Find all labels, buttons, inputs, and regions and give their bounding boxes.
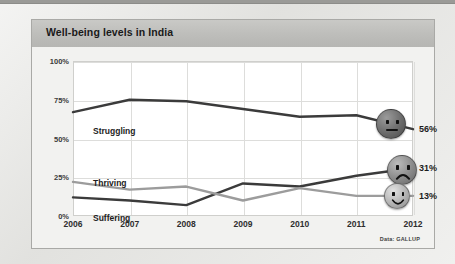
series-label-struggling: Struggling	[93, 126, 136, 136]
end-value-thriving: 31%	[419, 163, 437, 173]
x-axis: 2006200720082009201020112012	[73, 219, 413, 233]
x-tick-label: 2012	[404, 219, 423, 229]
x-tick-label: 2009	[234, 219, 253, 229]
top-divider-rule	[0, 0, 455, 4]
x-tick-label: 2007	[120, 219, 139, 229]
chart-card: Well-being levels in India 0%25%50%75%10…	[31, 19, 435, 249]
plot-container: 0%25%50%75%100% 56%31%13%StrugglingThriv…	[32, 47, 434, 248]
source-note: Data: GALLUP	[380, 236, 420, 242]
x-tick-label: 2011	[347, 219, 365, 229]
x-tick-label: 2006	[64, 219, 83, 229]
end-value-struggling: 56%	[419, 124, 437, 134]
end-value-suffering: 13%	[419, 191, 437, 201]
chart-label-layer: 56%31%13%StrugglingThrivingSuffering	[32, 47, 434, 248]
chart-title-bar: Well-being levels in India	[32, 20, 434, 48]
x-tick-label: 2008	[177, 219, 196, 229]
series-label-thriving: Thriving	[93, 178, 127, 188]
x-tick-label: 2010	[290, 219, 309, 229]
screenshot-root: Well-being levels in India 0%25%50%75%10…	[0, 0, 455, 264]
chart-title: Well-being levels in India	[46, 26, 173, 38]
